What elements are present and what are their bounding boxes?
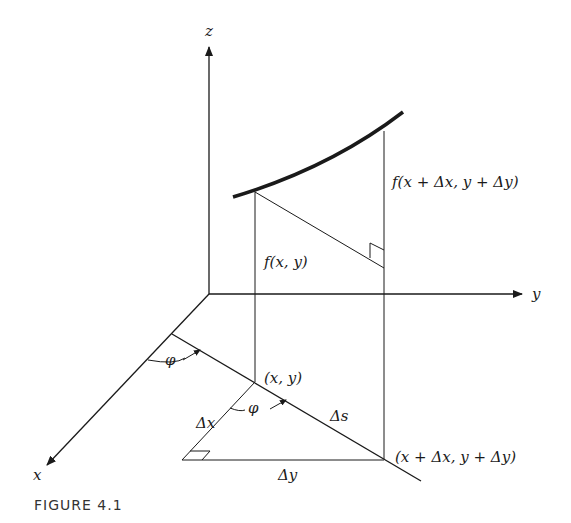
phi-arrow-1 (183, 350, 200, 360)
point-xy-label: (x, y) (264, 369, 302, 387)
x-axis-label: x (33, 466, 42, 484)
phi-label-2: φ (248, 399, 259, 417)
delta-s-label: Δs (329, 407, 349, 425)
right-angle-upper (370, 243, 384, 258)
figure-caption: FIGURE 4.1 (34, 497, 123, 513)
z-axis-label: z (204, 22, 213, 40)
delta-x-label: Δx (195, 414, 216, 432)
surface-curve (233, 112, 403, 197)
figure-diagram: z y x f(x + Δx, y + Δy) f(x, y) (x, y) (… (0, 0, 571, 523)
f-xy-label: f(x, y) (263, 253, 308, 271)
delta-x-edge (182, 382, 255, 460)
x-axis (47, 294, 209, 465)
phi-label-1: φ (165, 351, 176, 369)
y-axis-label: y (531, 285, 541, 303)
f-shifted-label: f(x + Δx, y + Δy) (391, 173, 519, 191)
phi-arc-2 (230, 408, 245, 411)
phi-arrow-2 (270, 400, 286, 409)
right-angle-lower (190, 451, 210, 460)
delta-y-label: Δy (277, 466, 298, 484)
point-shifted-label: (x + Δx, y + Δy) (395, 448, 516, 466)
